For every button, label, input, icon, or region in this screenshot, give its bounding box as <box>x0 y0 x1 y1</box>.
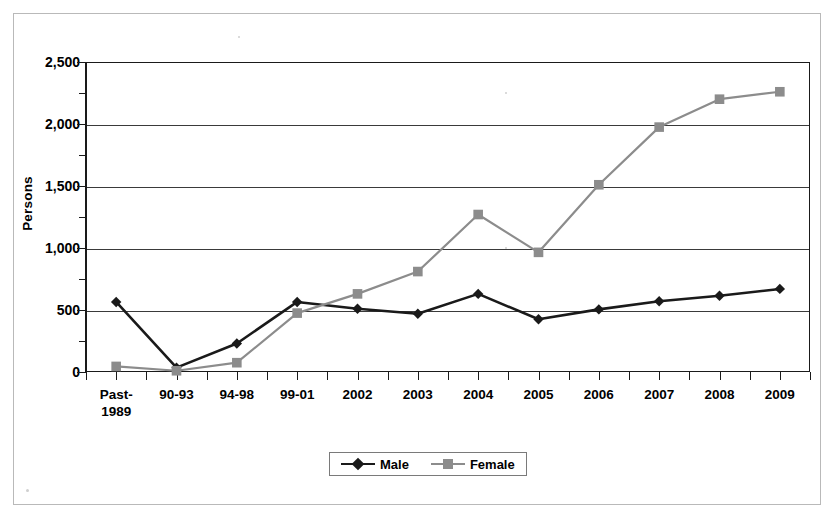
y-axis-tick-label: 500 <box>10 303 80 317</box>
x-axis-center-tick <box>780 372 781 380</box>
y-axis-tick-labels: 05001,0001,5002,0002,500 <box>4 62 80 372</box>
legend-item-male[interactable]: Male <box>341 457 409 472</box>
y-axis-major-tick <box>77 124 86 125</box>
legend-item-female[interactable]: Female <box>431 457 515 472</box>
x-axis-boundary-tick <box>267 372 268 380</box>
x-axis-boundary-tick <box>750 372 751 380</box>
x-axis-boundary-tick <box>629 372 630 380</box>
plot-area <box>86 62 810 372</box>
x-axis-center-tick <box>599 372 600 380</box>
x-axis-center-tick <box>659 372 660 380</box>
x-axis-boundary-tick <box>508 372 509 380</box>
x-axis-boundary-tick <box>327 372 328 380</box>
x-axis-center-tick <box>297 372 298 380</box>
legend-label-female: Female <box>470 457 515 472</box>
x-axis-category-labels: Past- 198990-9394-9899-01200220032004200… <box>86 386 810 436</box>
y-axis-tick-label: 1,000 <box>10 241 80 255</box>
x-axis-center-tick <box>418 372 419 380</box>
y-axis-minor-tick <box>79 341 86 342</box>
x-axis-boundary-tick <box>207 372 208 380</box>
legend-marker-male-icon <box>341 458 375 470</box>
scan-speckle <box>505 247 507 249</box>
legend-marker-female-icon <box>431 458 465 470</box>
x-axis-boundary-tick <box>810 372 811 380</box>
scan-speckle <box>26 489 29 492</box>
x-axis-center-tick <box>237 372 238 380</box>
chart-legend: Male Female <box>329 452 527 476</box>
x-axis-boundary-tick <box>689 372 690 380</box>
x-axis-boundary-tick <box>86 372 87 380</box>
x-axis-center-tick <box>358 372 359 380</box>
gridline <box>87 187 809 188</box>
scan-speckle <box>505 92 507 94</box>
y-axis-tick-label: 2,000 <box>10 117 80 131</box>
y-axis-major-tick <box>77 248 86 249</box>
y-axis-major-tick <box>77 62 86 63</box>
x-axis-center-tick <box>177 372 178 380</box>
x-axis-center-tick <box>539 372 540 380</box>
x-axis-boundary-tick <box>388 372 389 380</box>
y-axis-major-tick <box>77 372 86 373</box>
gridline <box>87 311 809 312</box>
gridline <box>87 125 809 126</box>
x-axis-center-tick <box>116 372 117 380</box>
x-axis-boundary-tick <box>146 372 147 380</box>
x-axis-ticks <box>86 372 810 381</box>
y-axis-minor-tick <box>79 279 86 280</box>
y-axis-tick-label: 0 <box>10 365 80 379</box>
x-axis-center-tick <box>478 372 479 380</box>
scan-speckle <box>238 36 240 38</box>
x-axis-center-tick <box>720 372 721 380</box>
line-chart: Persons 05001,0001,5002,0002,500 Past- 1… <box>0 0 833 518</box>
y-axis-minor-tick <box>79 93 86 94</box>
y-axis-major-tick <box>77 186 86 187</box>
x-axis-boundary-tick <box>448 372 449 380</box>
x-axis-boundary-tick <box>569 372 570 380</box>
y-axis-major-tick <box>77 310 86 311</box>
x-axis-category-label: 2009 <box>732 386 828 403</box>
y-axis-minor-tick <box>79 155 86 156</box>
y-axis-minor-tick <box>79 217 86 218</box>
legend-label-male: Male <box>380 457 409 472</box>
y-axis-tick-label: 2,500 <box>10 55 80 69</box>
y-axis-tick-label: 1,500 <box>10 179 80 193</box>
gridline <box>87 249 809 250</box>
